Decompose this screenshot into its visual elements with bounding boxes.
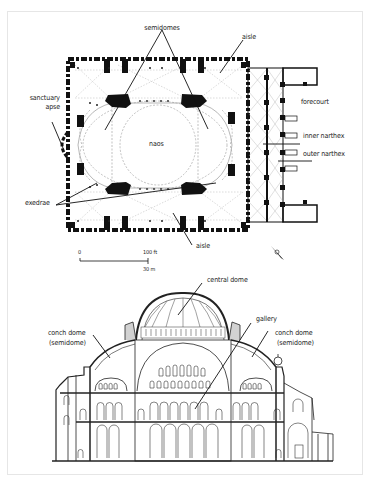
scale-end-label-m: 30 m bbox=[143, 267, 155, 273]
label-sanctuary: sanctuary bbox=[18, 95, 60, 102]
section-drawing bbox=[0, 0, 375, 488]
label-apse: apse bbox=[18, 104, 60, 111]
label-central-dome: central dome bbox=[207, 277, 248, 284]
label-conch-left-2: (semidome) bbox=[49, 340, 86, 347]
scale-start-label: 0 bbox=[78, 250, 81, 256]
label-conch-right-1: conch dome bbox=[275, 330, 313, 337]
scale-end-label-ft: 100 ft bbox=[143, 250, 157, 256]
ground-arcades bbox=[78, 423, 308, 458]
label-semidomes: semidomes bbox=[140, 25, 184, 32]
label-aisle-top: aisle bbox=[242, 34, 256, 41]
gallery-arcades bbox=[64, 396, 303, 426]
label-inner-narthex: inner narthex bbox=[303, 133, 344, 140]
label-exedrae: exedrae bbox=[25, 200, 50, 207]
label-gallery: gallery bbox=[256, 316, 277, 323]
label-naos: naos bbox=[149, 141, 164, 148]
tympanum-windows bbox=[99, 365, 261, 389]
dome-window-row bbox=[141, 327, 225, 338]
label-conch-left-1: conch dome bbox=[48, 330, 86, 337]
label-forecourt: forecourt bbox=[301, 99, 329, 106]
label-aisle-bottom: aisle bbox=[196, 243, 210, 250]
label-outer-narthex: outer narthex bbox=[303, 151, 345, 158]
label-conch-right-2: (semidome) bbox=[277, 340, 314, 347]
